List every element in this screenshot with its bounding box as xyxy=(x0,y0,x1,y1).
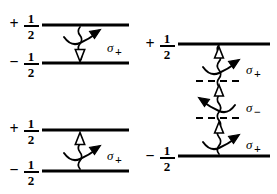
level-label-plus-half-bl: + 1 2 xyxy=(9,116,39,147)
level-denominator-tl-upper: 2 xyxy=(28,27,35,42)
level-label-minus-half-bl: − 1 2 xyxy=(9,157,39,188)
level-numerator-tl-lower: 1 xyxy=(28,49,35,64)
transition-label-tl: σ + xyxy=(107,40,122,59)
diagram-canvas: + 1 2 − 1 2 σ + + 1 xyxy=(0,0,277,194)
arrowhead-up-r-seg3 xyxy=(215,47,224,58)
level-denominator-r-upper: 2 xyxy=(164,47,171,62)
panel-bottom-left: + 1 2 − 1 2 σ + xyxy=(9,116,129,188)
sigma-subscript-r-seg2: − xyxy=(254,105,261,119)
arrowhead-up-r-seg2 xyxy=(215,85,224,96)
arrowhead-down-tl xyxy=(75,50,84,62)
panel-top-left: + 1 2 − 1 2 σ + xyxy=(9,11,129,80)
level-sign-r-upper: + xyxy=(145,35,154,52)
level-label-plus-half-tl: + 1 2 xyxy=(9,11,39,42)
transition-label-bl: σ + xyxy=(107,148,122,167)
level-numerator-bl-upper: 1 xyxy=(28,116,35,131)
level-denominator-bl-lower: 2 xyxy=(28,173,35,188)
level-denominator-tl-lower: 2 xyxy=(28,65,35,80)
level-sign-bl-lower: − xyxy=(9,161,18,178)
sigma-symbol-bl: σ xyxy=(107,148,114,163)
level-numerator-tl-upper: 1 xyxy=(28,11,35,26)
sigma-subscript-r-seg3: + xyxy=(254,67,261,81)
level-label-plus-half-r: + 1 2 xyxy=(145,31,175,62)
sigma-subscript-r-seg1: + xyxy=(254,142,261,156)
level-label-minus-half-tl: − 1 2 xyxy=(9,49,39,80)
level-numerator-r-lower: 1 xyxy=(164,143,171,158)
sigma-symbol-r-seg1: σ xyxy=(246,137,253,152)
transition-label-r-seg3: σ + xyxy=(246,62,261,81)
level-sign-bl-upper: + xyxy=(9,120,18,137)
sigma-symbol-r-seg3: σ xyxy=(246,62,253,77)
level-denominator-r-lower: 2 xyxy=(164,159,171,174)
level-label-minus-half-r: − 1 2 xyxy=(145,143,175,174)
sigma-symbol-r-seg2: σ xyxy=(246,100,253,115)
sigma-subscript-bl: + xyxy=(115,153,122,167)
level-numerator-bl-lower: 1 xyxy=(28,157,35,172)
level-sign-tl-lower: − xyxy=(9,53,18,70)
level-sign-tl-upper: + xyxy=(9,15,18,32)
transition-label-r-seg1: σ + xyxy=(246,137,261,156)
sigma-symbol-tl: σ xyxy=(107,40,114,55)
level-sign-r-lower: − xyxy=(145,147,154,164)
arrowhead-up-r-seg1 xyxy=(215,122,224,133)
level-numerator-r-upper: 1 xyxy=(164,31,171,46)
arrowhead-up-bl xyxy=(75,133,84,145)
wavy-transition-line-r xyxy=(217,45,220,154)
level-denominator-bl-upper: 2 xyxy=(28,132,35,147)
energy-level-diagram: + 1 2 − 1 2 σ + + 1 xyxy=(0,0,277,194)
sigma-subscript-tl: + xyxy=(115,45,122,59)
transition-label-r-seg2: σ − xyxy=(246,100,261,119)
panel-right: + 1 2 − 1 2 σ + σ xyxy=(145,31,270,174)
